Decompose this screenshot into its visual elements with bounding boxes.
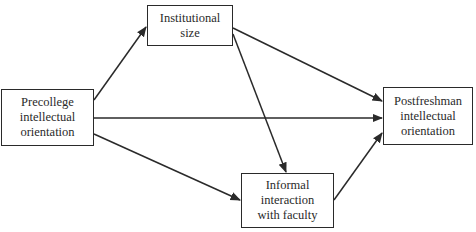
path-diagram: Precollege intellectual orientation Inst… [0,0,476,232]
node-label-line: orientation [20,125,74,140]
node-label-line: intellectual [20,110,76,125]
node-label-line: Informal [266,178,310,193]
node-label-line: with faculty [257,208,317,223]
node-postfreshman-intellectual-orientation: Postfreshman intellectual orientation [383,87,473,145]
node-precollege-intellectual-orientation: Precollege intellectual orientation [1,89,94,146]
node-label-line: interaction [261,193,314,208]
node-institutional-size: Institutional size [147,5,233,46]
edge-informal-to-postfreshman [334,133,382,200]
node-informal-interaction-with-faculty: Informal interaction with faculty [241,173,334,228]
edge-institutional-to-informal [233,34,286,172]
node-label-line: Institutional [160,11,220,26]
edge-institutional-to-postfreshman [233,28,382,101]
edge-precollege-to-informal [94,134,240,200]
node-label-line: Postfreshman [394,94,462,109]
node-label-line: orientation [401,124,455,139]
node-label-line: intellectual [400,109,456,124]
node-label-line: size [180,26,199,41]
node-label-line: Precollege [21,95,74,110]
edge-precollege-to-institutional [94,27,146,100]
